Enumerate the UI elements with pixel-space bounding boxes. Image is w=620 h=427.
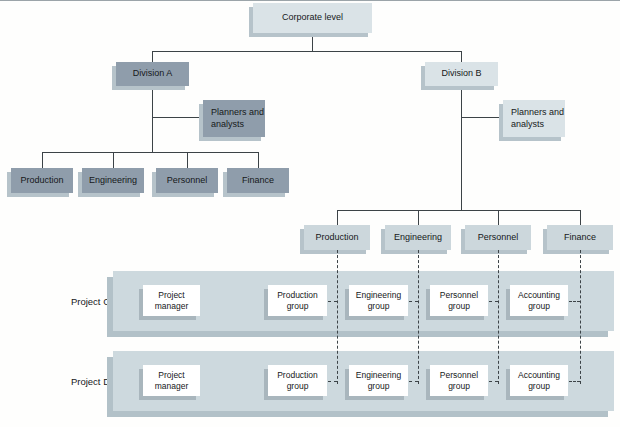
connector-line xyxy=(152,51,153,62)
matrix-dashed-line-engineering xyxy=(418,250,419,384)
project-c-personnel-group-label: Personnel group xyxy=(433,290,485,311)
dashed-link xyxy=(569,301,580,302)
connector-line xyxy=(258,152,259,168)
dashed-link xyxy=(328,381,337,382)
connector-line xyxy=(312,33,313,51)
project-d-manager-label: Project manager xyxy=(146,370,198,391)
connector-line xyxy=(42,152,43,168)
division-b-production-label: Production xyxy=(315,232,358,243)
connector-line xyxy=(418,210,419,225)
planners-analysts-b-label: Planners and analysts xyxy=(511,107,565,130)
project-c-personnel-group-box: Personnel group xyxy=(430,285,488,316)
page-rule xyxy=(0,0,620,1)
connector-line xyxy=(152,86,153,152)
project-c-production-group-label: Production group xyxy=(272,290,324,311)
division-a-box: Division A xyxy=(116,62,189,86)
division-b-label: Division B xyxy=(441,68,481,79)
matrix-dashed-line-production xyxy=(337,250,338,384)
connector-line xyxy=(337,210,580,211)
project-d-manager-box: Project manager xyxy=(143,365,200,396)
connector-line xyxy=(461,117,503,118)
division-a-label: Division A xyxy=(133,68,173,79)
matrix-dashed-line-finance xyxy=(580,250,581,384)
dashed-link xyxy=(489,301,498,302)
dashed-link xyxy=(409,381,418,382)
project-c-engineering-group-label: Engineering group xyxy=(353,290,405,311)
corporate-level-label: Corporate level xyxy=(282,12,343,23)
project-d-engineering-group-box: Engineering group xyxy=(349,365,408,396)
project-d-production-group-box: Production group xyxy=(268,365,327,396)
dashed-link xyxy=(489,381,498,382)
project-c-manager-label: Project manager xyxy=(146,290,198,311)
planners-analysts-a-box: Planners and analysts xyxy=(203,100,265,137)
division-b-finance-label: Finance xyxy=(564,232,596,243)
connector-line xyxy=(113,152,114,168)
connector-line xyxy=(461,86,462,210)
connector-line xyxy=(152,117,203,118)
project-d-engineering-group-label: Engineering group xyxy=(353,370,405,391)
division-b-finance-box: Finance xyxy=(547,225,613,250)
division-b-personnel-box: Personnel xyxy=(465,225,531,250)
division-b-engineering-box: Engineering xyxy=(385,225,451,250)
org-chart-figure: Corporate level Division A Division B Pl… xyxy=(0,0,620,427)
project-c-accounting-group-label: Accounting group xyxy=(513,290,565,311)
project-c-production-group-box: Production group xyxy=(268,285,327,316)
corporate-level-box: Corporate level xyxy=(253,3,372,33)
project-c-manager-box: Project manager xyxy=(143,285,200,316)
project-c-label: Project C xyxy=(38,296,110,307)
project-d-accounting-group-box: Accounting group xyxy=(510,365,568,396)
project-d-accounting-group-label: Accounting group xyxy=(513,370,565,391)
connector-line xyxy=(580,210,581,225)
division-a-finance-box: Finance xyxy=(227,168,289,193)
matrix-dashed-line-personnel xyxy=(498,250,499,384)
connector-line xyxy=(187,152,188,168)
division-b-box: Division B xyxy=(425,62,498,86)
connector-line xyxy=(461,51,462,62)
division-a-personnel-label: Personnel xyxy=(167,175,208,186)
dashed-link xyxy=(569,381,580,382)
project-d-label: Project D xyxy=(38,376,110,387)
connector-line xyxy=(498,210,499,225)
division-a-personnel-box: Personnel xyxy=(156,168,218,193)
dashed-link xyxy=(328,301,337,302)
division-a-engineering-box: Engineering xyxy=(82,168,144,193)
connector-line xyxy=(42,152,258,153)
project-d-personnel-group-box: Personnel group xyxy=(430,365,488,396)
connector-line xyxy=(337,210,338,225)
division-b-production-box: Production xyxy=(304,225,370,250)
division-a-finance-label: Finance xyxy=(242,175,274,186)
project-c-engineering-group-box: Engineering group xyxy=(349,285,408,316)
planners-analysts-b-box: Planners and analysts xyxy=(503,100,565,137)
division-a-engineering-label: Engineering xyxy=(89,175,137,186)
division-a-production-label: Production xyxy=(20,175,63,186)
division-b-personnel-label: Personnel xyxy=(478,232,519,243)
project-c-accounting-group-box: Accounting group xyxy=(510,285,568,316)
connector-line xyxy=(152,51,462,52)
planners-analysts-a-label: Planners and analysts xyxy=(211,107,265,130)
dashed-link xyxy=(409,301,418,302)
project-d-personnel-group-label: Personnel group xyxy=(433,370,485,391)
division-b-engineering-label: Engineering xyxy=(394,232,442,243)
project-d-production-group-label: Production group xyxy=(272,370,324,391)
division-a-production-box: Production xyxy=(11,168,73,193)
